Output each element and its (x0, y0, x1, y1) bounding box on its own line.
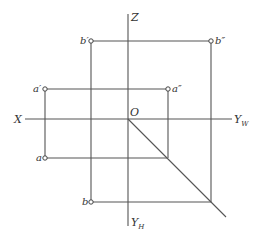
point-a-label: a (36, 152, 42, 163)
yw-axis-subscript: W (241, 120, 249, 128)
yh-axis-subscript: H (137, 223, 145, 231)
x-axis-label: X (13, 113, 23, 126)
projection-diagram: Z X O YW YH a′ a″ a b′ b″ b (0, 0, 255, 240)
point-b-double-prime-marker (209, 39, 213, 43)
point-b-double-prime-label: b″ (215, 35, 225, 46)
yh-axis-label: YH (131, 216, 145, 231)
point-a-marker (43, 156, 47, 160)
diagram-canvas: Z X O YW YH a′ a″ a b′ b″ b (0, 0, 255, 240)
point-b-label: b (82, 196, 88, 207)
point-a-double-prime-label: a″ (172, 83, 182, 94)
point-a-prime-label: a′ (33, 83, 42, 94)
point-b-prime-label: b′ (80, 35, 89, 46)
z-axis-label: Z (130, 11, 139, 24)
point-a-prime-marker (43, 87, 47, 91)
origin-label: O (130, 106, 139, 119)
point-b-marker (89, 200, 93, 204)
point-a-double-prime-marker (166, 87, 170, 91)
point-b-prime-marker (89, 39, 93, 43)
yw-axis-label: YW (234, 113, 249, 128)
